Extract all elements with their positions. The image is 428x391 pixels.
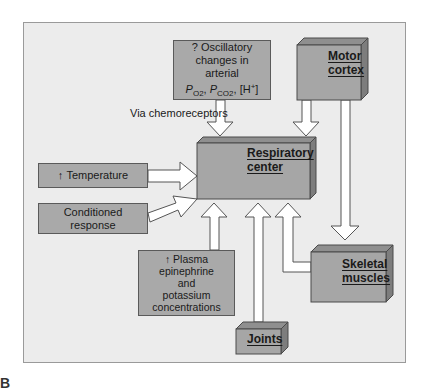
node-conditioned-response: Conditioned response <box>38 203 148 234</box>
up-arrow-icon: ↑ <box>165 253 170 265</box>
arrow-temperature-to-respiratory <box>148 162 197 190</box>
arrow-skeletal-to-respiratory <box>275 203 311 272</box>
oscillatory-line4: PO2, PCO2, [H+] <box>186 80 259 100</box>
node-joints: Joints <box>247 332 282 346</box>
up-arrow-icon: ↑ <box>58 169 64 182</box>
arrow-plasma-to-respiratory <box>201 203 227 250</box>
node-temperature: ↑ Temperature <box>38 163 148 188</box>
oscillatory-line2: changes in <box>186 54 259 67</box>
node-respiratory-center: Respiratory center <box>247 146 314 174</box>
oscillatory-line3: arterial <box>186 67 259 80</box>
panel-letter: B <box>0 375 10 391</box>
arrow-motor-to-skeletal <box>331 100 359 240</box>
oscillatory-line1: ? Oscillatory <box>186 41 259 54</box>
node-oscillatory-changes: ? Oscillatory changes in arterial PO2, P… <box>173 40 271 100</box>
arrow-conditioned-to-respiratory <box>148 196 197 222</box>
via-chemoreceptors-label: Via chemoreceptors <box>130 107 228 119</box>
arrow-joints-to-respiratory <box>245 203 271 322</box>
node-plasma-concentrations: ↑ Plasma epinephrine and potassium conce… <box>138 250 235 316</box>
node-skeletal-muscles: Skeletal muscles <box>342 257 390 285</box>
node-motor-cortex: Motor cortex <box>328 49 364 77</box>
arrow-motor-to-respiratory <box>293 100 319 136</box>
